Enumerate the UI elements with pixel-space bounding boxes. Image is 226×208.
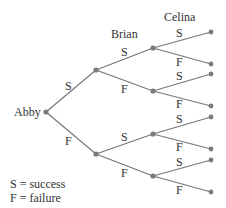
label-celina-1-s: S: [176, 27, 183, 39]
label-celina-2-s: S: [176, 70, 183, 82]
label-celina-4-s: S: [176, 156, 183, 168]
header-brian: Brian: [111, 28, 138, 40]
label-celina-1-f: F: [176, 56, 183, 68]
label-brian-top-f: F: [121, 83, 128, 95]
legend-success: S = success: [10, 177, 65, 191]
node-brian-f: [93, 151, 98, 156]
label-brian-bot-f: F: [121, 167, 128, 179]
node-brian-s: [93, 67, 98, 72]
label-abby-s: S: [65, 80, 72, 92]
node-abby: [43, 109, 48, 114]
root-label-abby: Abby: [14, 106, 41, 118]
label-brian-bot-s: S: [121, 131, 128, 143]
tree-nodes: [43, 30, 213, 195]
header-celina: Celina: [164, 11, 195, 23]
legend-failure: F = failure: [10, 191, 65, 205]
label-celina-2-f: F: [176, 98, 183, 110]
label-brian-top-s: S: [121, 46, 128, 58]
legend: S = success F = failure: [10, 177, 65, 205]
label-celina-3-f: F: [176, 141, 183, 153]
label-celina-3-s: S: [176, 113, 183, 125]
label-abby-f: F: [65, 135, 72, 147]
label-celina-4-f: F: [176, 184, 183, 196]
